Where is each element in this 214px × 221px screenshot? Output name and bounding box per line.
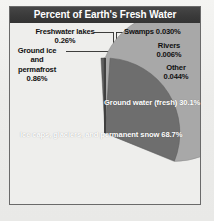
label-ground-ice-line3: permafrost	[2, 65, 72, 74]
label-swamps: Swamps 0.030%	[124, 27, 181, 36]
label-ground-water-line1: Ground water	[104, 98, 152, 107]
label-freshwater-lakes-value: 0.26%	[26, 36, 104, 45]
label-ice-caps-value: 68.7%	[161, 130, 182, 139]
label-other: Other 0.044%	[148, 63, 204, 82]
label-other-name: Other	[148, 63, 204, 72]
label-swamps-text: Swamps 0.030%	[124, 27, 181, 36]
label-ground-ice-line2: and	[2, 55, 72, 64]
label-ground-ice: Ground ice and permafrost 0.86%	[2, 46, 72, 83]
label-other-value: 0.044%	[148, 72, 204, 81]
label-freshwater-lakes-name: Freshwater lakes	[26, 27, 104, 36]
label-ice-caps-line2: and permanent	[85, 130, 138, 139]
label-ice-caps-line1: Ice caps, glaciers,	[20, 130, 83, 139]
label-ice-caps: Ice caps, glaciers, and permanent snow 6…	[20, 130, 116, 140]
label-rivers: Rivers 0.006%	[136, 41, 202, 60]
label-freshwater-lakes: Freshwater lakes 0.26%	[26, 27, 104, 46]
figure-container: Percent of Earth's Fresh Water	[0, 0, 214, 221]
label-ice-caps-line3: snow	[140, 130, 159, 139]
leader-line-ground-ice	[66, 51, 111, 57]
label-ground-ice-value: 0.86%	[2, 74, 72, 83]
label-ground-water: Ground water (fresh) 30.1%	[104, 98, 184, 108]
label-ground-water-value: 30.1%	[179, 98, 200, 107]
chart-title: Percent of Earth's Fresh Water	[10, 7, 200, 23]
label-ground-ice-line1: Ground ice	[2, 46, 72, 55]
label-rivers-value: 0.006%	[136, 50, 202, 59]
label-rivers-name: Rivers	[136, 41, 202, 50]
label-ground-water-line2: (fresh)	[154, 98, 177, 107]
chart-header-bar: Percent of Earth's Fresh Water	[10, 7, 200, 23]
